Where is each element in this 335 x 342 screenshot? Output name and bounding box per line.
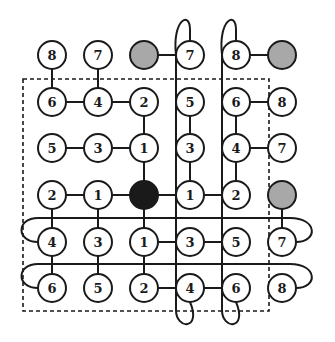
node-normal-r0c3: 7 — [176, 41, 204, 69]
node-label: 6 — [231, 281, 240, 296]
node-label: 6 — [47, 95, 56, 110]
node-label: 3 — [185, 141, 194, 156]
node-label: 5 — [231, 235, 240, 250]
node-normal-r4c1: 3 — [84, 228, 112, 256]
node-circle — [268, 41, 296, 69]
grid-graph-diagram: 87786425685313472112431357652468 — [0, 0, 335, 342]
node-circle — [130, 181, 158, 209]
node-label: 7 — [185, 48, 194, 63]
node-label: 8 — [231, 48, 240, 63]
node-circle — [268, 181, 296, 209]
node-label: 1 — [185, 188, 194, 203]
node-label: 6 — [47, 281, 56, 296]
node-normal-r2c4: 4 — [222, 134, 250, 162]
node-label: 2 — [139, 281, 148, 296]
node-normal-r5c4: 6 — [222, 274, 250, 302]
node-normal-r5c3: 4 — [176, 274, 204, 302]
node-label: 1 — [139, 141, 148, 156]
node-normal-r3c0: 2 — [38, 181, 66, 209]
node-normal-r4c2: 1 — [130, 228, 158, 256]
node-normal-r4c0: 4 — [38, 228, 66, 256]
node-normal-r1c1: 4 — [84, 88, 112, 116]
node-normal-r0c4: 8 — [222, 41, 250, 69]
node-normal-r4c4: 5 — [222, 228, 250, 256]
node-label: 7 — [277, 235, 286, 250]
node-normal-r0c0: 8 — [38, 41, 66, 69]
node-normal-r5c0: 6 — [38, 274, 66, 302]
node-normal-r5c5: 8 — [268, 274, 296, 302]
node-normal-r4c3: 3 — [176, 228, 204, 256]
node-label: 4 — [47, 235, 56, 250]
node-normal-r4c5: 7 — [268, 228, 296, 256]
node-label: 5 — [185, 95, 194, 110]
node-normal-r3c4: 2 — [222, 181, 250, 209]
node-normal-r2c1: 3 — [84, 134, 112, 162]
node-normal-r2c5: 7 — [268, 134, 296, 162]
node-label: 8 — [277, 281, 286, 296]
node-label: 2 — [47, 188, 56, 203]
node-normal-r1c2: 2 — [130, 88, 158, 116]
node-normal-r5c2: 2 — [130, 274, 158, 302]
node-normal-r2c0: 5 — [38, 134, 66, 162]
node-label: 3 — [185, 235, 194, 250]
node-normal-r3c3: 1 — [176, 181, 204, 209]
node-normal-r2c3: 3 — [176, 134, 204, 162]
node-gray-r0c2 — [130, 41, 158, 69]
node-normal-r2c2: 1 — [130, 134, 158, 162]
node-label: 5 — [47, 141, 56, 156]
node-normal-r1c3: 5 — [176, 88, 204, 116]
node-black-r3c2 — [130, 181, 158, 209]
node-label: 4 — [93, 95, 102, 110]
node-circle — [130, 41, 158, 69]
node-label: 4 — [185, 281, 194, 296]
node-label: 7 — [277, 141, 286, 156]
node-normal-r3c1: 1 — [84, 181, 112, 209]
node-label: 1 — [139, 235, 148, 250]
node-normal-r1c4: 6 — [222, 88, 250, 116]
node-normal-r0c1: 7 — [84, 41, 112, 69]
node-label: 2 — [231, 188, 240, 203]
node-normal-r1c0: 6 — [38, 88, 66, 116]
node-normal-r5c1: 5 — [84, 274, 112, 302]
node-gray-r3c5 — [268, 181, 296, 209]
node-normal-r1c5: 8 — [268, 88, 296, 116]
node-label: 4 — [231, 141, 240, 156]
node-label: 3 — [93, 235, 102, 250]
node-label: 6 — [231, 95, 240, 110]
node-label: 1 — [93, 188, 102, 203]
node-label: 8 — [47, 48, 56, 63]
node-gray-r0c5 — [268, 41, 296, 69]
node-label: 3 — [93, 141, 102, 156]
node-label: 5 — [93, 281, 102, 296]
node-label: 2 — [139, 95, 148, 110]
node-label: 7 — [93, 48, 102, 63]
node-label: 8 — [277, 95, 286, 110]
